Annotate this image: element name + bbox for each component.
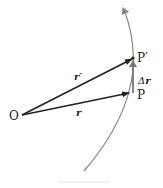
origin-label: O: [9, 109, 19, 123]
vector-r-prime-label: r′: [74, 71, 82, 82]
delta-symbol: Δ: [137, 75, 145, 86]
caption-placeholder: [58, 181, 110, 183]
trajectory-curve: [84, 8, 133, 171]
vector-r-label: r: [76, 107, 82, 118]
diagram-canvas: O P P′ r′ r Δr: [0, 0, 163, 188]
delta-r-symbol: r: [145, 75, 151, 86]
point-p-label: P: [137, 88, 145, 102]
vector-delta-r-label: Δr: [137, 75, 151, 86]
point-p-prime-label: P′: [137, 51, 148, 65]
point-p-prime-dot: [131, 56, 134, 59]
